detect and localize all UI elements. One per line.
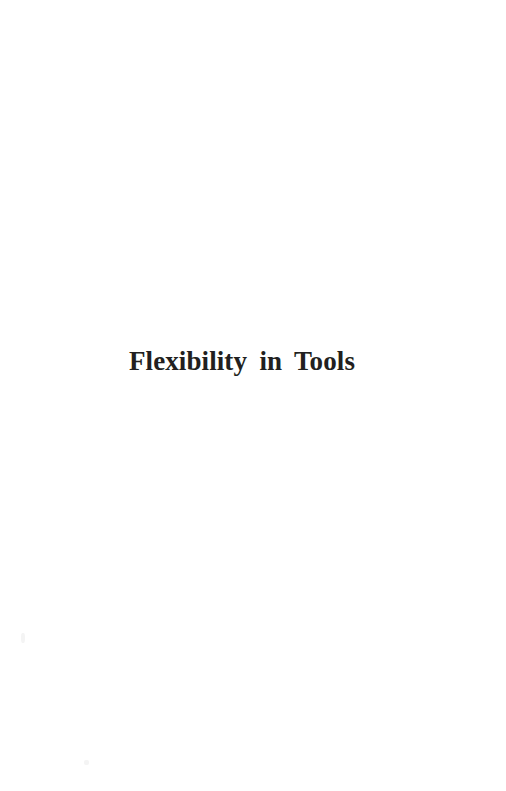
document-page: Flexibility in Tools — [0, 0, 506, 791]
part-title-block: Flexibility in Tools — [0, 344, 484, 378]
page-title: Flexibility in Tools — [129, 344, 355, 378]
scan-artifact-speck — [21, 633, 25, 643]
scan-artifact-speck — [84, 760, 89, 765]
